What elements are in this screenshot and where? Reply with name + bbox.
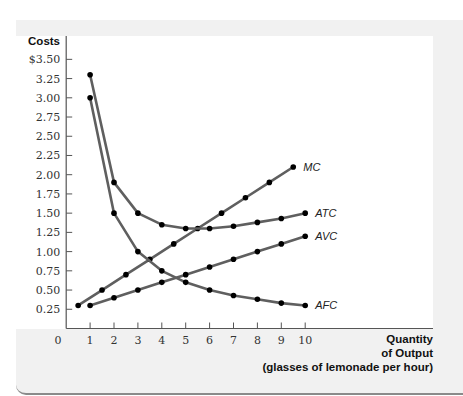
x-tick-label: 8	[254, 334, 261, 347]
data-point	[135, 287, 141, 293]
data-point	[159, 268, 165, 274]
x-tick-label: 9	[278, 334, 285, 347]
data-point	[183, 226, 189, 232]
curves	[75, 72, 308, 308]
data-point	[231, 293, 237, 299]
data-point	[302, 233, 308, 239]
x-axis-title-line: Quantity	[386, 333, 433, 345]
axes: $3.503.253.002.752.502.252.001.751.501.2…	[29, 36, 433, 347]
y-tick-label: 0.50	[36, 284, 61, 297]
data-point	[135, 249, 141, 255]
x-tick-label: 7	[230, 334, 237, 347]
data-point	[75, 303, 81, 309]
data-point	[255, 296, 261, 302]
data-point	[207, 226, 213, 232]
x-tick-label: 2	[111, 334, 118, 347]
data-point	[219, 210, 225, 216]
data-point	[267, 180, 273, 186]
data-point	[290, 164, 296, 170]
atc-line	[90, 75, 305, 229]
y-tick-label: 2.00	[36, 169, 61, 182]
cost-curves-chart: $3.503.253.002.752.502.252.001.751.501.2…	[0, 0, 463, 396]
data-point	[255, 220, 261, 226]
x-axis-title-line: of Output	[381, 347, 433, 359]
data-point	[87, 303, 93, 309]
data-point	[99, 287, 105, 293]
x-tick-label: 6	[206, 334, 213, 347]
y-tick-label: 3.00	[36, 92, 61, 105]
avc-line	[90, 236, 305, 305]
y-tick-label: 3.25	[36, 73, 61, 86]
x-tick-label: 0	[55, 334, 62, 347]
y-tick-label: 0.25	[36, 303, 61, 316]
data-point	[231, 256, 237, 262]
data-point	[159, 222, 165, 228]
data-point	[279, 241, 285, 247]
data-point	[171, 241, 177, 247]
data-point	[279, 300, 285, 306]
data-point	[111, 295, 117, 301]
data-point	[231, 223, 237, 229]
x-tick-label: 4	[158, 334, 165, 347]
x-tick-label: 3	[134, 334, 141, 347]
x-axis-title-line: (glasses of lemonade per hour)	[262, 361, 433, 373]
y-axis-title: Costs	[28, 35, 60, 47]
data-point	[87, 72, 93, 78]
y-tick-label: 1.50	[36, 207, 61, 220]
data-point	[135, 210, 141, 216]
data-point	[302, 303, 308, 309]
data-point	[111, 210, 117, 216]
data-point	[159, 280, 165, 286]
data-point	[207, 287, 213, 293]
data-point	[243, 195, 249, 201]
data-point	[255, 249, 261, 255]
data-point	[111, 180, 117, 186]
y-tick-label: 0.75	[36, 265, 61, 278]
curve-label-afc: AFC	[314, 299, 337, 311]
labels: CostsQuantityof Output(glasses of lemona…	[28, 35, 434, 373]
data-point	[302, 210, 308, 216]
x-tick-label: 1	[87, 334, 94, 347]
curve-label-atc: ATC	[314, 207, 336, 219]
x-tick-label: 5	[182, 334, 189, 347]
curve-atc	[87, 72, 308, 231]
afc-line	[90, 98, 305, 306]
y-tick-label: 2.25	[36, 149, 61, 162]
curve-afc	[87, 95, 308, 308]
data-point	[207, 264, 213, 270]
y-tick-label: 1.25	[36, 226, 61, 239]
x-tick-label: 10	[298, 334, 312, 347]
y-tick-label: 1.75	[36, 188, 61, 201]
data-point	[123, 272, 129, 278]
y-tick-label: 1.00	[36, 246, 61, 259]
data-point	[87, 95, 93, 101]
data-point	[183, 280, 189, 286]
data-point	[279, 216, 285, 222]
curve-avc	[87, 233, 308, 308]
curve-label-avc: AVC	[314, 230, 337, 242]
y-tick-label: $3.50	[29, 53, 61, 66]
y-tick-label: 2.75	[36, 111, 61, 124]
curve-label-mc: MC	[303, 161, 320, 173]
y-tick-label: 2.50	[36, 130, 61, 143]
data-point	[183, 272, 189, 278]
